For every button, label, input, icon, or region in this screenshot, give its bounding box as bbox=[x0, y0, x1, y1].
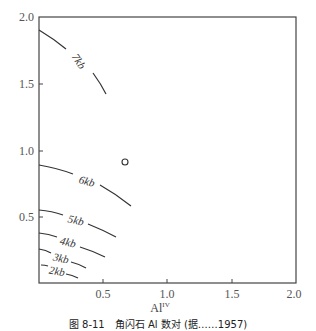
x-axis-title-main: Al bbox=[150, 301, 163, 315]
contour-6kb-line bbox=[39, 165, 73, 174]
contour-lines bbox=[39, 30, 131, 278]
x-tick-label: 2.0 bbox=[287, 287, 302, 301]
x-tick-label: 0.5 bbox=[96, 287, 111, 301]
x-axis-title-superscript: IV bbox=[162, 301, 169, 309]
x-axis-title: AlIV bbox=[150, 301, 169, 315]
contour-4kb-line bbox=[39, 233, 57, 237]
y-tick-label: 1.5 bbox=[19, 77, 34, 91]
x-tick-label: 1.0 bbox=[160, 287, 175, 301]
contour-label-2kb: 2kb bbox=[48, 264, 66, 279]
y-tick-label: 2.0 bbox=[19, 10, 34, 24]
contour-label-4kb: 4kb bbox=[59, 234, 78, 250]
y-tick-label: 0.5 bbox=[19, 210, 34, 224]
contour-3kb-line bbox=[71, 262, 86, 268]
data-point-open-circle bbox=[122, 159, 128, 165]
contour-6kb-line bbox=[100, 185, 131, 206]
contour-7kb-line bbox=[39, 30, 66, 49]
contour-label-6kb: 6kb bbox=[78, 173, 97, 189]
contour-label-5kb: 5kb bbox=[67, 212, 86, 228]
y-tick-label: 1.0 bbox=[19, 144, 34, 158]
contour-7kb-line bbox=[93, 73, 106, 94]
contour-label-7kb: 7kb bbox=[70, 51, 89, 71]
contour-4kb-line bbox=[80, 247, 105, 257]
contour-2kb-line bbox=[41, 265, 48, 266]
contour-5kb-line bbox=[39, 210, 63, 215]
contour-2kb-line bbox=[66, 274, 78, 278]
contour-3kb-line bbox=[39, 249, 51, 253]
contour-label-3kb: 3kb bbox=[51, 250, 70, 265]
x-tick-label: 1.5 bbox=[225, 287, 240, 301]
contour-5kb-line bbox=[88, 224, 116, 237]
figure-caption: 图 8-11 角闪石 Al 数对 (据……1957) bbox=[0, 316, 316, 331]
